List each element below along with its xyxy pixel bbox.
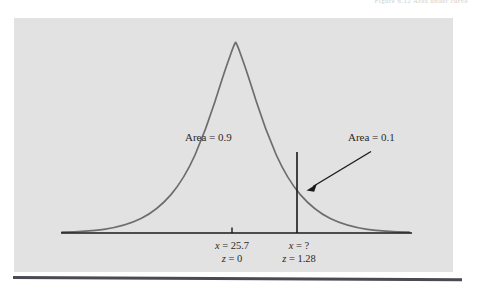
area-left-label: Area = 0.9 xyxy=(185,131,232,143)
mean-x-label: x = 25.7 xyxy=(197,240,267,253)
cutoff-tick-labels: x = ? z = 1.28 xyxy=(264,240,334,266)
cutoff-x-label: x = ? xyxy=(264,240,334,253)
mean-tick-labels: x = 25.7 z = 0 xyxy=(197,240,267,266)
cutoff-z-label: z = 1.28 xyxy=(264,253,334,266)
area-right-arrow xyxy=(307,152,372,192)
arrow-head xyxy=(307,184,317,192)
area-right-label: Area = 0.1 xyxy=(348,131,395,143)
arrow-shaft xyxy=(313,152,371,187)
figure-root: Figure 6.12 Area under curve Area = 0.9 … xyxy=(0,0,477,299)
mean-z-label: z = 0 xyxy=(197,253,267,266)
